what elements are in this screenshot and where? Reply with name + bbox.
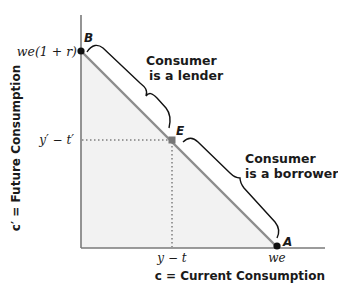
y-axis-label-text: = Future Consumption xyxy=(9,65,23,221)
lender-annotation-line2: is a lender xyxy=(149,68,224,83)
point-a-label: A xyxy=(282,235,292,249)
x-axis-label: c = Current Consumption xyxy=(155,269,325,283)
point-b-marker xyxy=(77,47,84,54)
lender-annotation-line1: Consumer xyxy=(146,53,218,68)
borrower-annotation-line1: Consumer xyxy=(245,151,317,166)
y-tick-yt-prime: y′ − t′ xyxy=(38,133,74,147)
y-tick-we1r: we(1 + r) xyxy=(17,44,77,59)
y-axis-label: c′ = Future Consumption xyxy=(9,65,23,231)
budget-constraint-diagram: B E A Consumer is a lender Consumer is a… xyxy=(0,0,338,289)
x-tick-we: we xyxy=(268,251,285,265)
point-a-marker xyxy=(273,242,280,249)
x-axis-label-var: c xyxy=(155,269,162,283)
borrower-annotation-line2: is a borrower xyxy=(245,166,338,181)
x-axis-label-text: = Current Consumption xyxy=(162,269,325,283)
x-tick-yt: y − t xyxy=(156,251,186,265)
point-e-marker xyxy=(169,137,176,144)
point-e-label: E xyxy=(176,124,185,138)
point-b-label: B xyxy=(84,31,93,45)
y-axis-label-var: c xyxy=(9,224,23,231)
